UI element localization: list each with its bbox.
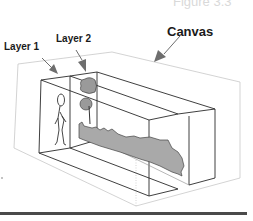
tree-crown (80, 98, 92, 110)
layer1-arrow-icon (49, 64, 58, 74)
canvas-arrow-icon (154, 50, 166, 62)
layer2-arrow-icon (78, 59, 86, 72)
canvas-box (14, 52, 240, 206)
arrows (42, 36, 180, 74)
landscape-shape (79, 122, 184, 176)
bottom-rule (0, 212, 247, 215)
cloud-shape (80, 78, 96, 94)
stray-mark (1, 177, 3, 179)
person-figure (55, 94, 66, 145)
layers-diagram (0, 0, 253, 221)
